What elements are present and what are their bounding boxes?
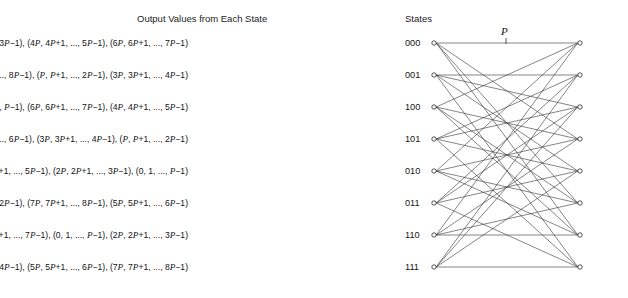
trellis-node-left: [432, 233, 436, 237]
trellis-node-left: [432, 169, 436, 173]
output-values-row: (3P, 3P+1, ..., 4P−1), (P, P+1, ..., 2P−…: [0, 197, 188, 209]
output-values-column-title: Output Values from Each State: [137, 13, 267, 24]
trellis-node-right: [578, 201, 582, 205]
trellis-node-left: [432, 201, 436, 205]
trellis-edge: [436, 75, 578, 107]
trellis-node-right: [578, 137, 582, 141]
trellis-edge: [436, 43, 578, 171]
trellis-node-left: [432, 137, 436, 141]
trellis-edge-group: [436, 43, 578, 267]
output-values-row: (2P, 2P+1, ..., 3P−1), (0, 1, ..., P−1),…: [0, 101, 188, 113]
figure-root: Output Values from Each State States P (…: [0, 0, 628, 298]
trellis-node-right: [578, 233, 582, 237]
trellis-edge: [436, 107, 578, 267]
output-values-row: (5P, 5P+1, ..., 6P−1), (7P, 7P+1, ..., 8…: [0, 69, 188, 81]
trellis-edge: [436, 171, 578, 235]
trellis-node-right: [578, 105, 582, 109]
output-values-row: (0, 1, ..., P−1), (2P, 2P+1, ..., 3P−1),…: [0, 37, 188, 49]
output-values-row: (P, P+1, ..., 2P−1), (3P, 3P+1, ..., 4P−…: [0, 261, 188, 273]
trellis-node-right: [578, 265, 582, 269]
output-values-row: (7P, 7P+1, ..., 8P−1), (5P, 5P+1, ..., 6…: [0, 133, 188, 145]
trellis-edge: [436, 171, 578, 267]
trellis-node-left: [432, 105, 436, 109]
trellis-node-left: [432, 265, 436, 269]
output-values-row: (4P, 4P+1, ..., 5P−1), (6P, 6P+1, ..., 7…: [0, 229, 188, 241]
output-values-row: (6P, 6P+1, ..., 7P−1), (4P, 4P+1, ..., 5…: [0, 165, 188, 177]
trellis-node-right: [578, 41, 582, 45]
trellis-node-left: [432, 73, 436, 77]
states-column-title: States: [405, 13, 432, 24]
trellis-diagram: [425, 30, 600, 286]
trellis-node-left: [432, 41, 436, 45]
trellis-node-right: [578, 73, 582, 77]
trellis-node-right: [578, 169, 582, 173]
